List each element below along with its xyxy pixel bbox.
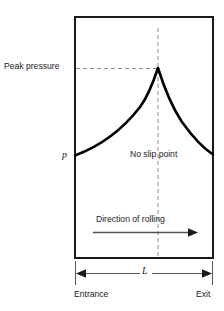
pressure-symbol-label: p bbox=[62, 150, 67, 160]
no-slip-point-label: No slip point bbox=[130, 150, 177, 159]
dimension-arrow-head-left-icon bbox=[76, 269, 86, 278]
dimension-arrow-head-right-icon bbox=[202, 269, 212, 278]
entrance-label: Entrance bbox=[74, 290, 108, 299]
direction-of-rolling-label: Direction of rolling bbox=[96, 215, 165, 224]
exit-label: Exit bbox=[196, 290, 210, 299]
peak-pressure-label: Peak pressure bbox=[4, 62, 59, 71]
direction-arrow-head-icon bbox=[188, 228, 198, 237]
pressure-distribution-figure: Peak pressure p No slip point Direction … bbox=[0, 0, 224, 311]
length-symbol-label: L bbox=[142, 266, 148, 276]
figure-canvas bbox=[0, 0, 224, 311]
pressure-curve bbox=[75, 68, 213, 156]
